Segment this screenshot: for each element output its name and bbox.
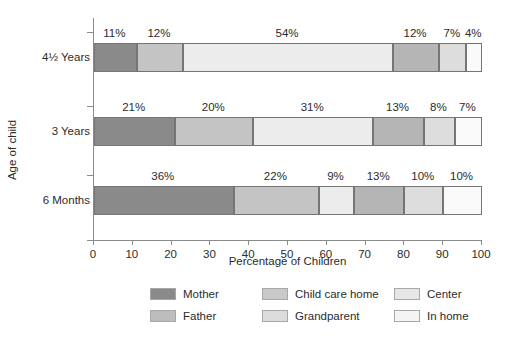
category-label: 6 Months xyxy=(26,194,90,206)
segment-value-label: 9% xyxy=(327,170,344,182)
bar-segment xyxy=(183,43,393,72)
legend-label: Mother xyxy=(183,288,219,300)
segment-value-label: 10% xyxy=(450,170,473,182)
bar-segment xyxy=(393,43,440,72)
legend-swatch xyxy=(150,288,176,300)
bar-segment xyxy=(253,117,373,146)
segment-value-label: 36% xyxy=(151,170,174,182)
category-label: 4½ Years xyxy=(26,51,90,63)
x-axis-tick xyxy=(403,240,404,245)
segment-value-label: 12% xyxy=(147,27,170,39)
y-axis-tick xyxy=(87,175,93,176)
legend-item[interactable]: In home xyxy=(394,310,469,322)
x-axis-tick xyxy=(171,240,172,245)
legend-swatch xyxy=(394,288,420,300)
x-axis-tick xyxy=(132,240,133,245)
y-axis-title-label: Age of child xyxy=(6,120,18,180)
legend-label: Child care home xyxy=(295,288,379,300)
segment-value-label: 54% xyxy=(275,27,298,39)
x-axis-tick xyxy=(209,240,210,245)
bar-segment xyxy=(319,186,354,215)
legend-label: In home xyxy=(427,310,469,322)
segment-value-label: 12% xyxy=(404,27,427,39)
bar-row xyxy=(94,186,482,215)
legend-swatch xyxy=(262,310,288,322)
segment-value-label: 7% xyxy=(459,101,476,113)
legend-swatch xyxy=(262,288,288,300)
bar-segment xyxy=(175,117,253,146)
bar-segment xyxy=(373,117,423,146)
bar-segment xyxy=(439,43,466,72)
bar-segment xyxy=(404,186,443,215)
x-axis-tick xyxy=(93,240,94,245)
segment-value-label: 13% xyxy=(386,101,409,113)
legend-item[interactable]: Grandparent xyxy=(262,310,360,322)
x-axis-title: Percentage of Children xyxy=(93,255,482,267)
bar-segment xyxy=(443,186,482,215)
category-axis-labels: 4½ Years3 Years6 Months xyxy=(22,0,90,250)
legend-label: Grandparent xyxy=(295,310,360,322)
bar-segment xyxy=(234,186,319,215)
bar-segment xyxy=(94,186,234,215)
segment-value-label: 20% xyxy=(202,101,225,113)
bar-segment xyxy=(137,43,184,72)
segment-value-label: 13% xyxy=(367,170,390,182)
segment-value-label: 4% xyxy=(465,27,482,39)
legend-item[interactable]: Mother xyxy=(150,288,219,300)
legend-item[interactable]: Center xyxy=(394,288,462,300)
legend-swatch xyxy=(394,310,420,322)
segment-value-label: 21% xyxy=(122,101,145,113)
x-axis-tick xyxy=(481,240,482,245)
segment-value-label: 31% xyxy=(301,101,324,113)
legend-swatch xyxy=(150,310,176,322)
segment-value-label: 22% xyxy=(264,170,287,182)
segment-value-label: 7% xyxy=(444,27,461,39)
legend-item[interactable]: Child care home xyxy=(262,288,379,300)
legend-item[interactable]: Father xyxy=(150,310,216,322)
bar-segment xyxy=(94,43,137,72)
legend-label: Father xyxy=(183,310,216,322)
bar-row xyxy=(94,117,482,146)
segment-value-label: 10% xyxy=(411,170,434,182)
bar-segment xyxy=(94,117,175,146)
x-axis-tick xyxy=(248,240,249,245)
segment-value-label: 11% xyxy=(103,27,125,39)
bar-segment xyxy=(466,43,482,72)
x-axis-tick xyxy=(326,240,327,245)
bar-row xyxy=(94,43,482,72)
y-axis-title: Age of child xyxy=(2,60,22,240)
x-axis-tick xyxy=(365,240,366,245)
bar-segment xyxy=(424,117,455,146)
segment-value-label: 8% xyxy=(430,101,447,113)
plot-area: 0102030405060708090100 11%12%54%12%7%4%2… xyxy=(93,18,481,240)
chart-legend: MotherChild care homeCenterFatherGrandpa… xyxy=(150,288,480,332)
bar-segment xyxy=(455,117,482,146)
y-axis-tick xyxy=(87,106,93,107)
legend-label: Center xyxy=(427,288,462,300)
category-label: 3 Years xyxy=(26,125,90,137)
stacked-bar-chart: Age of child 4½ Years3 Years6 Months 010… xyxy=(0,0,505,340)
y-axis-tick xyxy=(87,32,93,33)
bar-segment xyxy=(354,186,404,215)
x-axis-tick xyxy=(287,240,288,245)
x-axis-tick xyxy=(442,240,443,245)
